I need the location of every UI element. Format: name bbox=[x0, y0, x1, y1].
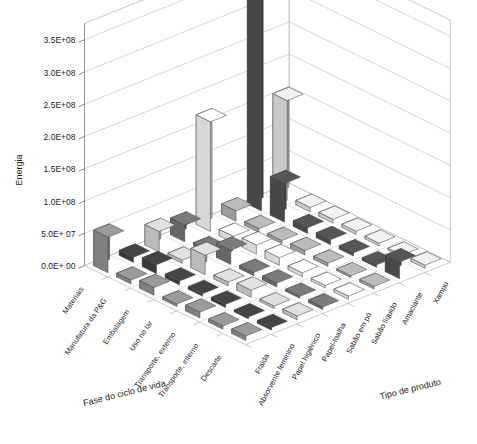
z-axis-series-label: Xampu bbox=[431, 280, 450, 305]
x-axis-category-label: Materiais bbox=[61, 285, 86, 316]
x-axis-category-label: Embalagem bbox=[101, 308, 132, 346]
z-axis-title: Tipo de produto bbox=[379, 377, 442, 402]
x-tickmark bbox=[194, 322, 200, 325]
y-tickmark bbox=[79, 40, 85, 43]
y-tickmark bbox=[79, 201, 85, 204]
z-axis-series-label: Papel-toalha bbox=[320, 321, 348, 364]
y-tickmark bbox=[79, 169, 85, 172]
bar-face-front bbox=[196, 115, 210, 232]
z-axis-series-label: Sabão em pó bbox=[344, 311, 373, 355]
x-tickmark bbox=[171, 311, 177, 314]
y-tickmark bbox=[79, 233, 85, 236]
bar-face-front bbox=[94, 230, 108, 273]
y-tick-label: 1.0E+08 bbox=[44, 197, 76, 207]
y-tick-label: 5.0E+ 07 bbox=[41, 229, 76, 239]
x-tickmark bbox=[125, 288, 131, 291]
x-axis-title: Fase do ciclo de vida bbox=[82, 378, 166, 408]
y-tick-label: 2.0E+08 bbox=[44, 132, 76, 142]
chart-container: 0.0E+ 005.0E+ 071.0E+081.5E+082.0E+082.5… bbox=[0, 0, 477, 444]
y-axis-title: Energia bbox=[14, 154, 24, 185]
z-tickmark bbox=[374, 293, 380, 296]
z-tickmark bbox=[348, 303, 354, 306]
z-tickmark bbox=[322, 314, 328, 317]
y-tick-label: 2.5E+08 bbox=[44, 100, 76, 110]
y-tickmark bbox=[79, 136, 85, 139]
x-axis-category-label: Uso no lar bbox=[127, 319, 154, 353]
y-tick-label: 3.5E+08 bbox=[44, 35, 76, 45]
x-tickmark bbox=[148, 299, 154, 302]
z-axis-series-label: Amaciante bbox=[400, 290, 425, 326]
z-tickmark bbox=[271, 334, 277, 337]
y-tick-label: 3.0E+08 bbox=[44, 68, 76, 78]
z-axis-series-label: Sabão líquido bbox=[369, 301, 399, 346]
y-tickmark bbox=[79, 72, 85, 75]
y-tick-label: 1.5E+08 bbox=[44, 164, 76, 174]
x-tickmark bbox=[102, 277, 108, 280]
z-tickmark bbox=[399, 283, 405, 286]
z-axis-series-label: Papel higiênico bbox=[290, 332, 322, 382]
three-d-bar-chart: 0.0E+ 005.0E+ 071.0E+081.5E+082.0E+082.5… bbox=[0, 0, 477, 444]
z-tickmark bbox=[246, 345, 252, 348]
y-tickmark bbox=[79, 104, 85, 107]
x-tickmark bbox=[79, 266, 85, 269]
bar-face-front bbox=[247, 0, 261, 211]
z-tickmark bbox=[297, 324, 303, 327]
x-tickmark bbox=[217, 333, 223, 336]
x-axis-category-label: Descarte bbox=[199, 353, 224, 383]
z-axis-series-label: Fralda bbox=[253, 351, 271, 375]
bar-face-front bbox=[270, 176, 284, 222]
y-tick-label: 0.0E+ 00 bbox=[41, 261, 76, 271]
z-tickmark bbox=[425, 273, 431, 276]
